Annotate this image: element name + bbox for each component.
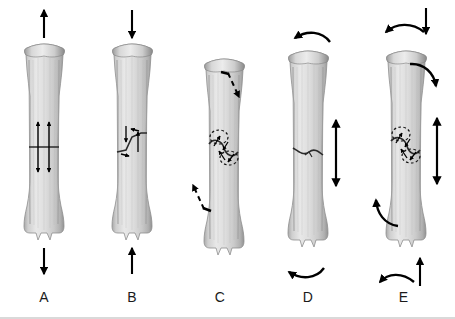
rotation-arrowheads-e <box>396 133 416 160</box>
rotation-arrowheads-c <box>214 136 234 162</box>
panel-c: C <box>176 0 264 319</box>
panel-a-graphics <box>0 0 88 319</box>
panel-b-graphics <box>88 0 176 319</box>
rotation-arrows-e <box>392 127 420 163</box>
panel-label-b: B <box>88 289 176 305</box>
bottom-force-arrow-d <box>289 268 324 277</box>
bone-top-curved-arrow-e <box>410 64 436 86</box>
top-force-arrow-c <box>228 73 239 97</box>
fracture-line-d <box>293 148 323 155</box>
panel-e: E <box>352 0 455 319</box>
fracture-line-e <box>391 138 420 154</box>
bottom-force-arrow-tail-c <box>203 208 211 211</box>
fracture-line-c <box>209 140 238 155</box>
panel-label-c: C <box>176 289 264 305</box>
panel-e-graphics <box>352 0 455 319</box>
bone-d <box>288 51 328 247</box>
panel-d-graphics <box>264 0 352 319</box>
bone-e <box>386 51 426 247</box>
panel-label-a: A <box>0 289 88 305</box>
panel-label-e: E <box>352 289 455 305</box>
top-force-arrow-e <box>386 25 424 32</box>
panel-d: D <box>264 0 352 319</box>
bone-c <box>204 59 244 255</box>
top-force-arrow-d <box>295 33 330 42</box>
top-force-arrow-tail-c <box>221 72 229 74</box>
internal-force-arrows-b <box>121 126 139 156</box>
bottom-force-arrow-e <box>380 275 414 282</box>
fracture-line-b <box>117 133 147 152</box>
panel-c-graphics <box>176 0 264 319</box>
bone-bottom-curved-arrow-e <box>376 200 398 226</box>
internal-force-arrows-a <box>38 122 49 172</box>
panel-a: A <box>0 0 88 319</box>
panel-b: B <box>88 0 176 319</box>
fracture-mechanics-figure: A <box>0 0 455 319</box>
rotation-arrows-c <box>210 130 238 165</box>
bone-b <box>112 44 152 240</box>
bottom-force-arrow-c <box>193 185 204 209</box>
panel-label-d: D <box>264 289 352 305</box>
bone-a <box>24 44 64 240</box>
fracture-wedge-d <box>305 152 312 157</box>
